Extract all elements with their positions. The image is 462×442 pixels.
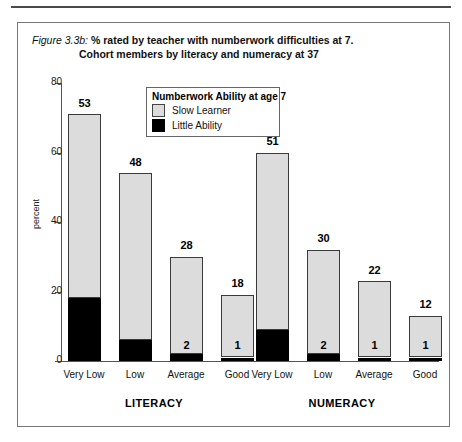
y-tick-60: 60 <box>18 153 62 154</box>
legend-swatch-slow-learner-icon <box>152 104 165 117</box>
bar-segment-little-ability <box>170 354 203 361</box>
bar-value-little-ability: 18 <box>68 301 101 313</box>
figure-page: Figure 3.3b: % rated by teacher with num… <box>0 0 462 442</box>
header-rule <box>11 6 451 8</box>
bar-segment-slow-learner <box>256 153 289 330</box>
legend-swatch-little-ability-icon <box>152 119 165 132</box>
y-tick-label-80: 80 <box>34 76 62 87</box>
y-axis-title: percent <box>31 184 41 244</box>
bar-value-slow-learner: 18 <box>221 277 254 289</box>
bar-segment-slow-learner <box>119 173 152 340</box>
bar-segment-slow-learner <box>409 316 442 358</box>
bar-segment-slow-learner <box>68 114 101 298</box>
x-label-numeracy-average: Average <box>348 369 400 380</box>
x-label-numeracy-very-low: Very Low <box>246 369 298 380</box>
bar-segment-little-ability <box>409 358 442 362</box>
bar-value-slow-learner: 12 <box>409 298 442 310</box>
y-tick-20: 20 <box>18 292 62 293</box>
legend-item-little-ability[interactable]: Little Ability <box>152 119 274 132</box>
bar-value-little-ability: 2 <box>307 339 340 351</box>
y-tick-80: 80 <box>18 83 62 84</box>
bar-value-little-ability: 2 <box>170 339 203 351</box>
bar-segment-little-ability <box>221 358 254 362</box>
bar-value-little-ability: 1 <box>409 339 442 351</box>
y-tick-label-60: 60 <box>34 146 62 157</box>
bar-value-slow-learner: 53 <box>68 97 101 109</box>
x-label-literacy-low: Low <box>109 369 161 380</box>
bar-segment-little-ability <box>307 354 340 361</box>
x-label-literacy-very-low: Very Low <box>58 369 110 380</box>
legend-label-slow-learner: Slow Learner <box>172 105 231 116</box>
legend-title: Numberwork Ability at age 7 <box>152 91 274 102</box>
bar-value-little-ability: 1 <box>358 339 391 351</box>
bar-value-slow-learner: 28 <box>170 239 203 251</box>
x-label-numeracy-low: Low <box>297 369 349 380</box>
y-tick-label-0: 0 <box>34 354 62 365</box>
bar-value-slow-learner: 22 <box>358 264 391 276</box>
group-label-literacy: LITERACY <box>74 397 234 409</box>
legend-item-slow-learner[interactable]: Slow Learner <box>152 104 274 117</box>
bar-value-slow-learner: 30 <box>307 232 340 244</box>
group-label-numeracy: NUMERACY <box>262 397 422 409</box>
x-label-numeracy-good: Good <box>399 369 451 380</box>
x-label-literacy-average: Average <box>160 369 212 380</box>
bar-value-little-ability: 1 <box>221 339 254 351</box>
bar-value-little-ability: 9 <box>256 332 289 344</box>
bar-value-slow-learner: 48 <box>119 156 152 168</box>
y-tick-0: 0 <box>18 361 62 362</box>
x-axis-line <box>61 361 439 362</box>
y-tick-label-20: 20 <box>34 285 62 296</box>
chart-legend: Numberwork Ability at age 7 Slow Learner… <box>146 87 280 137</box>
bar-segment-little-ability <box>358 358 391 362</box>
figure-frame: Figure 3.3b: % rated by teacher with num… <box>17 22 450 427</box>
bar-value-little-ability: 6 <box>119 342 152 354</box>
chart-plot-area: 0 20 40 60 80 percent <box>18 23 451 428</box>
legend-label-little-ability: Little Ability <box>172 120 222 131</box>
